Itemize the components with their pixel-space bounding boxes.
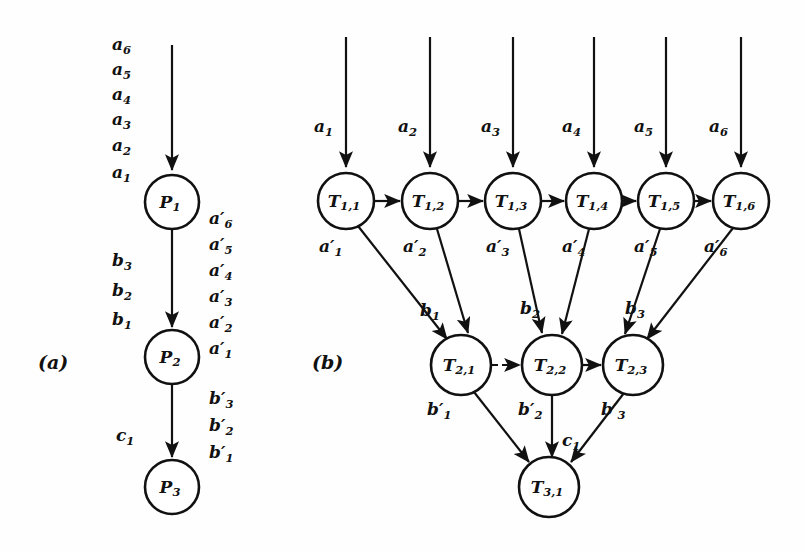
panel-a-output-token-bprime-3: b′3 [209,390,233,411]
panel-a-output-token-aprime-4: a′4 [209,262,233,283]
node-label-subscript: 2,2 [545,363,566,377]
node-t-1-4[interactable]: T1,4 [566,173,622,229]
panel-a-output-token-bprime-1: b′1 [209,444,233,465]
node-t-2-1[interactable]: T2,1 [431,335,491,395]
panel-a-output-token-aprime-3: a′3 [209,288,233,309]
node-label-subscript: 2,3 [626,363,647,377]
node-label-subscript: 1,1 [340,199,360,213]
panel-a-output-token-aprime-5: a′5 [209,236,233,257]
panel-b-row2-nodes: T2,1T2,2T2,3 [431,335,663,395]
node-label-subscript: 2,1 [454,363,475,377]
panel-a-mid-token-b-1: b1 [112,311,132,332]
panel-b-row1-input-token-a-4: a4 [562,118,581,139]
panel-a-input-token-a-1: a1 [112,164,131,185]
node-label-subscript: 1,5 [660,199,680,213]
panel-a-mid-token-b-2: b2 [112,282,132,303]
panel-a-input-token-a-4: a4 [112,86,131,107]
panel-a-input-token-a-5: a5 [112,61,131,82]
panel-b-row1-output-token-aprime-4: a′4 [562,238,586,259]
panel-b-row1-input-token-a-5: a5 [634,118,653,139]
node-t-1-6[interactable]: T1,6 [713,173,769,229]
panel-a-mid-token-b-3: b3 [112,252,132,273]
panel-b-row1-output-token-aprime-2: a′2 [403,238,427,259]
panel-a-nodes: P1P2P3 [145,175,199,514]
panel-b-row1-output-token-aprime-6: a′6 [704,238,728,259]
node-label-subscript: 1,6 [735,199,755,213]
panel-b-row2-input-token-b-2: b2 [520,300,540,321]
diagram-vector-layer: P1P2P3 T1,1T1,2T1,3T1,4T1,5T1,6 T2,1T2,2… [0,0,804,552]
node-t-3-1[interactable]: T3,1 [519,457,579,517]
panel-b-input-arrows [346,37,741,167]
node-label-subscript: 2 [171,355,180,369]
panel-a-input-token-a-2: a2 [112,137,131,158]
panel-b-row2-input-token-b-1: b1 [420,302,440,323]
node-label-subscript: 1,2 [424,199,444,213]
panel-b-row3-input-token-c-1: c1 [562,432,580,453]
panel-label-b: (b) [312,351,343,373]
node-label-subscript: 3,1 [543,485,563,499]
node-p-3[interactable]: P3 [145,460,199,514]
panel-a-input-token-a-3: a3 [112,111,131,132]
panel-b-row1-output-token-aprime-3: a′3 [486,238,510,259]
node-label-subscript: 3 [172,485,180,499]
node-t-1-5[interactable]: T1,5 [638,173,694,229]
node-t-2-2[interactable]: T2,2 [522,335,582,395]
panel-a-low-token-c-1: c1 [116,427,134,448]
node-label-subscript: 1 [172,200,180,214]
node-t-1-3[interactable]: T1,3 [485,173,541,229]
node-p-1[interactable]: P1 [145,175,199,229]
panel-a-output-token-bprime-2: b′2 [209,417,233,438]
panel-a-output-token-aprime-2: a′2 [209,314,233,335]
node-p-2[interactable]: P2 [145,330,199,384]
panel-b-row2-output-token-bprime-1: b′1 [427,401,451,422]
figure-canvas: P1P2P3 T1,1T1,2T1,3T1,4T1,5T1,6 T2,1T2,2… [0,0,804,552]
node-label-subscript: 1,3 [507,199,527,213]
panel-b-row1-output-token-aprime-1: a′1 [319,238,343,259]
panel-a-output-token-aprime-6: a′6 [209,210,233,231]
panel-b-row1-input-token-a-6: a6 [709,118,728,139]
node-t-1-2[interactable]: T1,2 [402,173,458,229]
node-label-subscript: 1,4 [588,199,608,213]
panel-a-output-token-aprime-1: a′1 [209,340,233,361]
panel-a-input-token-a-6: a6 [112,36,131,57]
panel-b-row1-input-token-a-2: a2 [398,118,417,139]
panel-b-row2-output-token-bprime-2: b′2 [518,401,542,422]
panel-b-row1-input-token-a-3: a3 [481,118,500,139]
panel-b-row1-output-token-aprime-5: a′5 [634,238,658,259]
node-t-1-1[interactable]: T1,1 [318,173,374,229]
node-t-2-3[interactable]: T2,3 [603,335,663,395]
panel-b-row2-output-token-bprime-3: b′3 [601,401,625,422]
t12-to-t21 [437,229,468,333]
panel-label-a: (a) [38,351,68,373]
panel-b-row1-input-token-a-1: a1 [314,118,333,139]
panel-b-row2-input-token-b-3: b3 [625,300,645,321]
panel-b-row3-nodes: T3,1 [519,457,579,517]
